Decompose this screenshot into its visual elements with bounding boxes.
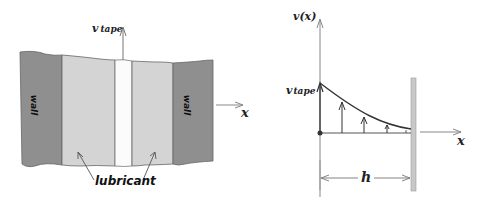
fixed-wall (411, 78, 416, 191)
tape (115, 60, 132, 167)
tape-velocity-label: vtape (92, 22, 122, 35)
wall-left (20, 51, 62, 166)
lubricant-label: lubricant (95, 174, 156, 188)
y-axis-label: v(x) (293, 10, 316, 23)
x-axis-label-right: x (457, 133, 465, 148)
diagram-canvas (0, 0, 481, 201)
tape-velocity-symbol: v (92, 22, 98, 35)
wall-right (173, 60, 213, 165)
tape-velocity-label-right: vtape (286, 84, 315, 97)
lubricant-right (132, 61, 173, 166)
lubricant-left (62, 55, 115, 166)
left-panel (20, 27, 243, 180)
right-panel (317, 19, 461, 197)
velocity-profile-curve (320, 83, 411, 129)
gap-label: h (361, 169, 371, 185)
wall-left-label: wall (29, 95, 39, 116)
tape-velocity-subscript: tape (100, 24, 122, 34)
x-axis-label-left: x (241, 105, 249, 120)
tape-velocity-subscript: tape (293, 86, 315, 96)
wall-right-label: wall (182, 95, 192, 116)
tape-velocity-symbol: v (286, 84, 292, 97)
